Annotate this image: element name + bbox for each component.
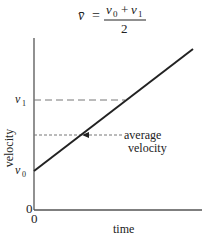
formula-lhs: v̄: [78, 8, 85, 23]
formula-plus: +: [121, 2, 128, 17]
velocity-line: [34, 49, 193, 171]
v1-label-sub: 1: [22, 99, 26, 108]
average-label-line1: average: [124, 128, 161, 142]
formula-v0: v: [106, 2, 112, 17]
average-label-line2: velocity: [128, 141, 167, 155]
v0-label-sub: 0: [22, 170, 26, 179]
average-velocity-formula: v̄ = v 0 + v 1 2: [78, 2, 146, 36]
formula-v1-sub: 1: [138, 9, 143, 19]
velocity-time-diagram: v̄ = v 0 + v 1 2 v 1 v 0 average velocit…: [0, 0, 204, 238]
x-origin-label: 0: [31, 211, 38, 226]
v1-label: v: [15, 92, 21, 106]
formula-v0-sub: 0: [113, 9, 118, 19]
formula-denominator: 2: [121, 21, 128, 36]
y-axis-label: velocity: [2, 129, 16, 168]
formula-v1: v: [131, 2, 137, 17]
formula-equals: =: [92, 8, 100, 23]
x-axis-label: time: [113, 222, 134, 236]
